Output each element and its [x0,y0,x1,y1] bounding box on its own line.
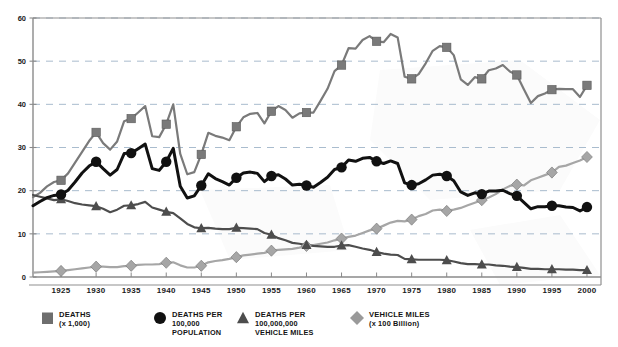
marker-circle [196,180,206,190]
marker-circle [231,173,241,183]
x-tick-label: 1975 [402,286,421,295]
marker-circle [161,157,171,167]
legend-title: DEATHS PER [172,310,223,319]
marker-circle [301,180,311,190]
x-tick-label: 1995 [542,286,561,295]
square-marker [42,313,53,325]
y-tick-label: 30 [18,143,26,152]
x-tick-label: 1970 [367,286,386,295]
marker-square [443,43,451,51]
marker-square [92,128,100,136]
marker-square [162,120,170,128]
marker-square [583,81,591,89]
marker-circle [266,171,276,181]
marker-circle [56,189,66,199]
y-tick-label: 40 [18,100,26,109]
marker-square [548,85,556,93]
legend-title: DEATHS [59,310,91,319]
marker-circle [406,180,416,190]
traffic-fatalities-chart: 6050403020100 19251930193519401945195019… [0,0,618,347]
marker-square [232,123,240,131]
x-tick-label: 1945 [192,286,211,295]
marker-square [372,37,380,45]
marker-circle [477,189,487,199]
marker-square [127,114,135,122]
x-tick-label: 1940 [157,286,176,295]
x-tick-label: 1985 [472,286,491,295]
legend-subtitle-2: POPULATION [172,328,221,337]
y-tick-label: 10 [18,230,26,239]
x-tick-label: 1925 [52,286,71,295]
marker-circle [91,157,101,167]
marker-square [513,71,521,79]
marker-square [57,176,65,184]
x-tick-label: 1960 [297,286,316,295]
y-tick-label: 0 [22,273,26,282]
y-tick-label: 60 [18,14,26,23]
marker-circle [547,201,557,211]
legend-subtitle-1: 100,000,000 [255,319,298,328]
circle-marker [154,312,166,324]
marker-square [267,107,275,115]
x-tick-label: 1935 [122,286,141,295]
marker-circle [371,156,381,166]
marker-circle [126,148,136,158]
y-tick-label: 50 [18,57,26,66]
marker-square [337,61,345,69]
x-tick-label: 1955 [262,286,281,295]
legend-title: DEATHS PER [255,310,306,319]
marker-circle [512,191,522,201]
x-tick-label: 1930 [87,286,106,295]
marker-square [197,150,205,158]
marker-circle [582,202,592,212]
x-tick-label: 1965 [332,286,351,295]
legend-title: VEHICLE MILES [369,310,430,319]
legend-subtitle-1: (x 1,000) [59,319,90,328]
y-tick-label: 20 [18,186,26,195]
x-tick-label: 1980 [437,286,456,295]
marker-square [302,108,310,116]
marker-circle [336,162,346,172]
marker-square [478,75,486,83]
legend-subtitle-1: (x 100 Billion) [369,319,420,328]
x-tick-label: 1990 [507,286,526,295]
x-tick-label: 2000 [577,286,596,295]
marker-circle [442,171,452,181]
chart-canvas: 6050403020100 19251930193519401945195019… [0,0,618,347]
legend-subtitle-1: 100,000 [172,319,200,328]
x-tick-label: 1950 [227,286,246,295]
legend-subtitle-2: VEHICLE MILES [255,328,314,337]
marker-square [407,75,415,83]
